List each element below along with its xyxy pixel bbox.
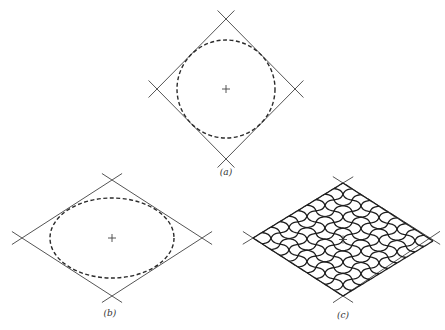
extension-line (218, 10, 226, 19)
extension-line (343, 296, 353, 303)
mesh-line (334, 189, 424, 247)
extension-line (112, 296, 122, 303)
extension-line (102, 296, 112, 303)
figure-b-label: (b) (104, 308, 117, 318)
figure-c (243, 177, 440, 303)
extension-line (226, 10, 234, 19)
extension-line (343, 177, 353, 183)
extension-line (243, 238, 253, 244)
extension-line (333, 296, 343, 303)
extension-line (149, 89, 157, 98)
diagram-canvas: (a) (b) (c) (0, 0, 445, 330)
extension-line (202, 231, 212, 238)
mesh-line (316, 200, 406, 258)
mesh-line (325, 194, 415, 252)
extension-line (112, 173, 122, 180)
mesh-line (307, 205, 397, 263)
extension-line (12, 231, 22, 238)
figure-c-label: (c) (337, 310, 350, 320)
extension-line (12, 238, 22, 245)
extension-line (295, 89, 303, 98)
mesh-line (343, 183, 433, 241)
extension-line (149, 80, 157, 89)
extension-line (102, 173, 112, 180)
extension-line (430, 231, 440, 238)
extension-line (202, 238, 212, 245)
extension-line (295, 80, 303, 89)
extension-line (333, 177, 343, 183)
extension-line (243, 231, 253, 238)
figure-a (149, 10, 304, 167)
figure-b (12, 173, 212, 302)
figure-a-label: (a) (220, 167, 233, 177)
